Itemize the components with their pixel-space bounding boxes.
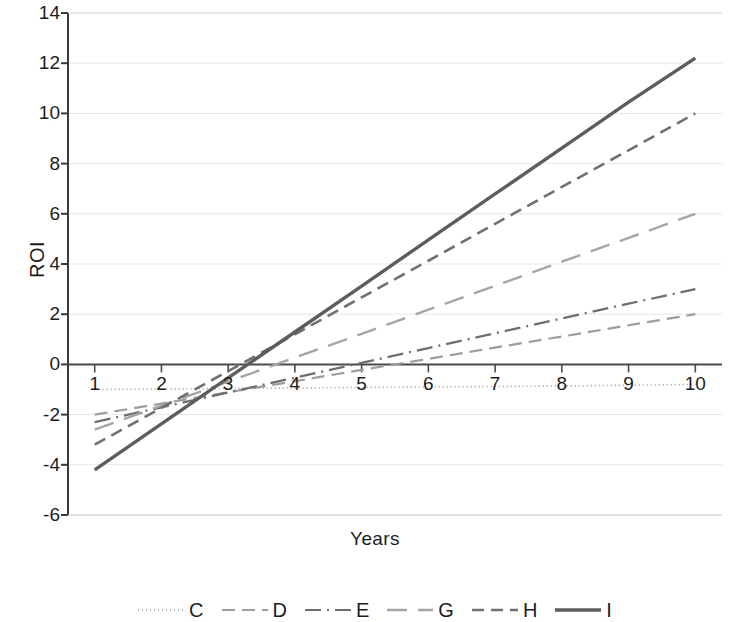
x-tick-label: 1 [80, 374, 110, 393]
y-tick-label: 8 [0, 154, 60, 173]
y-tick-label: 14 [0, 3, 60, 22]
series-line-E [95, 289, 696, 422]
y-tick-label: 6 [0, 204, 60, 223]
legend-item-C[interactable]: C [138, 600, 203, 620]
legend-swatch-D [222, 603, 268, 617]
legend-label-E: E [356, 600, 369, 620]
legend-item-H[interactable]: H [472, 600, 537, 620]
series-line-G [95, 214, 696, 430]
legend-swatch-I [555, 603, 601, 617]
y-tick-label: 2 [0, 304, 60, 323]
legend-label-C: C [189, 600, 203, 620]
legend-swatch-E [305, 603, 351, 617]
series-line-C [95, 384, 696, 389]
y-tick-label: -6 [0, 505, 60, 524]
y-tick-label: 10 [0, 103, 60, 122]
y-tick-label: 4 [0, 254, 60, 273]
legend-item-E[interactable]: E [305, 600, 369, 620]
x-tick-label: 4 [280, 374, 310, 393]
y-tick-label: -4 [0, 455, 60, 474]
roi-line-chart: ROI Years 14121086420-2-4-6 12345678910 … [0, 0, 750, 622]
x-tick-label: 2 [146, 374, 176, 393]
legend-label-H: H [523, 600, 537, 620]
legend-item-G[interactable]: G [387, 600, 454, 620]
x-tick-label: 7 [480, 374, 510, 393]
chart-legend: CDEGHI [0, 600, 750, 620]
x-tick-label: 8 [547, 374, 577, 393]
y-tick-label: 0 [0, 354, 60, 373]
legend-label-I: I [606, 600, 612, 620]
legend-swatch-C [138, 603, 184, 617]
legend-swatch-G [387, 603, 433, 617]
legend-label-G: G [438, 600, 454, 620]
legend-item-D[interactable]: D [222, 600, 287, 620]
x-tick-label: 3 [213, 374, 243, 393]
plot-area [0, 0, 750, 622]
legend-label-D: D [273, 600, 287, 620]
series-line-H [95, 113, 696, 444]
x-tick-label: 6 [413, 374, 443, 393]
y-tick-label: -2 [0, 405, 60, 424]
legend-swatch-H [472, 603, 518, 617]
x-tick-label: 10 [680, 374, 710, 393]
y-tick-label: 12 [0, 53, 60, 72]
x-tick-label: 5 [347, 374, 377, 393]
x-tick-label: 9 [614, 374, 644, 393]
legend-item-I[interactable]: I [555, 600, 612, 620]
